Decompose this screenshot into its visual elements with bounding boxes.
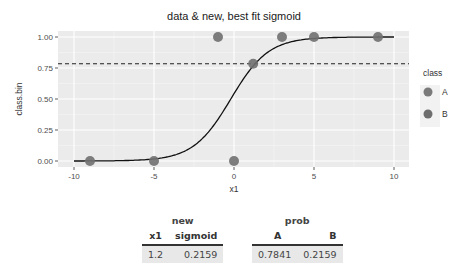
svg-text:-10: -10 bbox=[68, 172, 80, 181]
col-header-sigmoid: sigmoid bbox=[169, 230, 223, 245]
table-row: 0.7841 0.2159 bbox=[252, 245, 343, 263]
svg-text:10: 10 bbox=[390, 172, 399, 181]
new-table: new x1 sigmoid 1.2 0.2159 bbox=[142, 212, 223, 263]
prob-table: prob A B 0.7841 0.2159 bbox=[252, 212, 343, 263]
y-axis: 0.000.250.500.751.00 bbox=[37, 33, 58, 166]
svg-text:5: 5 bbox=[312, 172, 317, 181]
x-axis: -10-50510 bbox=[68, 167, 399, 181]
svg-text:1.00: 1.00 bbox=[37, 33, 53, 42]
cell-prob-b: 0.2159 bbox=[297, 245, 342, 263]
svg-text:0: 0 bbox=[232, 172, 237, 181]
cell-sigmoid: 0.2159 bbox=[169, 245, 223, 263]
legend-key-b-icon bbox=[424, 110, 433, 119]
x-axis-label: x1 bbox=[230, 184, 239, 194]
col-header-a: A bbox=[252, 230, 297, 245]
col-header-b: B bbox=[297, 230, 342, 245]
legend-label-b: B bbox=[442, 109, 448, 119]
svg-text:0.75: 0.75 bbox=[37, 64, 53, 73]
prob-table-title: prob bbox=[252, 212, 343, 230]
y-axis-label: class.bin bbox=[14, 82, 24, 115]
cell-prob-a: 0.7841 bbox=[252, 245, 297, 263]
legend-label-a: A bbox=[442, 87, 448, 97]
svg-text:0.50: 0.50 bbox=[37, 95, 53, 104]
cell-x1: 1.2 bbox=[142, 245, 169, 263]
svg-text:-5: -5 bbox=[150, 172, 158, 181]
col-header-x1: x1 bbox=[142, 230, 169, 245]
legend-title: class bbox=[423, 68, 442, 78]
legend-key-a-icon bbox=[424, 88, 433, 97]
chart-title: data & new, best fit sigmoid bbox=[167, 10, 301, 22]
svg-text:0.25: 0.25 bbox=[37, 126, 53, 135]
new-table-title: new bbox=[142, 212, 223, 230]
svg-text:0.00: 0.00 bbox=[37, 157, 53, 166]
legend: class A B bbox=[420, 68, 448, 127]
chart: data & new, best fit sigmoid 0.000.250.5… bbox=[0, 0, 471, 200]
table-row: 1.2 0.2159 bbox=[142, 245, 223, 263]
